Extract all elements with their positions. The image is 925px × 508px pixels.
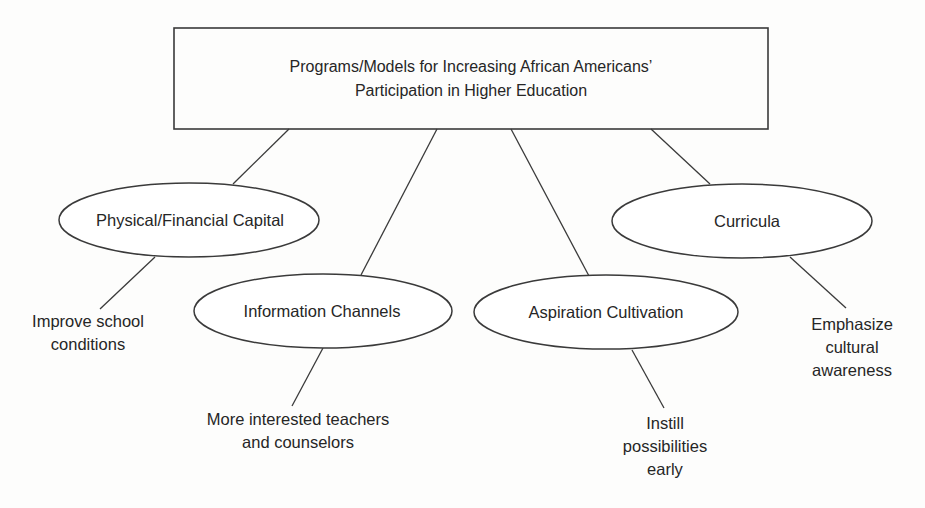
outcome-curricula: Emphasize cultural awareness	[811, 313, 893, 382]
outcome-line: Improve school	[32, 310, 144, 333]
connector-root-aspiration	[511, 129, 589, 276]
outcome-line: Instill	[623, 412, 707, 435]
category-label-aspiration-cultivation: Aspiration Cultivation	[529, 301, 684, 324]
outcome-line: Emphasize	[811, 313, 893, 336]
root-title-line2: Participation in Higher Education	[290, 79, 653, 103]
outcome-physical-financial-capital: Improve school conditions	[32, 310, 144, 356]
outcome-line: early	[623, 458, 707, 481]
outcome-line: awareness	[811, 359, 893, 382]
connector-physical-outcome	[100, 257, 155, 309]
connector-root-curricula	[651, 129, 710, 184]
connector-information-outcome	[292, 348, 323, 406]
outcome-line: possibilities	[623, 435, 707, 458]
root-title-line1: Programs/Models for Increasing African A…	[290, 55, 653, 79]
connector-root-physical	[233, 129, 289, 184]
connector-root-information	[361, 129, 437, 275]
outcome-line: and counselors	[207, 431, 390, 454]
category-label-information-channels: Information Channels	[244, 300, 401, 323]
connector-aspiration-outcome	[632, 350, 664, 408]
root-title: Programs/Models for Increasing African A…	[290, 55, 653, 103]
outcome-line: cultural	[811, 336, 893, 359]
connector-curricula-outcome	[790, 257, 846, 308]
outcome-line: More interested teachers	[207, 408, 390, 431]
category-label-curricula: Curricula	[714, 210, 780, 233]
category-label-physical-financial-capital: Physical/Financial Capital	[96, 209, 284, 232]
outcome-information-channels: More interested teachers and counselors	[207, 408, 390, 454]
outcome-aspiration-cultivation: Instill possibilities early	[623, 412, 707, 481]
outcome-line: conditions	[32, 333, 144, 356]
